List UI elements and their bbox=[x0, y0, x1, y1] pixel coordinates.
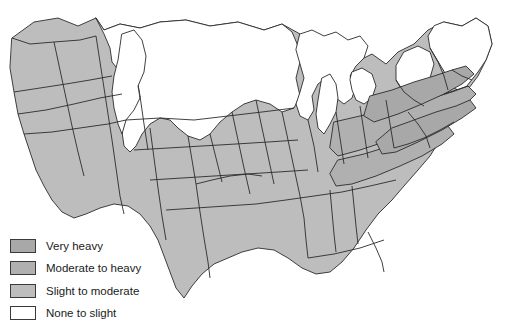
legend-swatch-slight-to-moderate bbox=[10, 284, 36, 298]
acid-rain-severity-map-figure: Very heavy Moderate to heavy Slight to m… bbox=[0, 0, 507, 327]
legend: Very heavy Moderate to heavy Slight to m… bbox=[10, 238, 185, 324]
legend-label-slight-to-moderate: Slight to moderate bbox=[46, 285, 139, 298]
legend-item-slight-to-moderate: Slight to moderate bbox=[10, 283, 139, 299]
legend-item-moderate-to-heavy: Moderate to heavy bbox=[10, 260, 141, 276]
legend-label-very-heavy: Very heavy bbox=[46, 240, 103, 253]
legend-item-very-heavy: Very heavy bbox=[10, 238, 103, 254]
legend-swatch-very-heavy bbox=[10, 239, 36, 253]
legend-swatch-none-to-slight bbox=[10, 306, 36, 320]
boundary-fl bbox=[368, 232, 384, 272]
legend-label-moderate-to-heavy: Moderate to heavy bbox=[46, 262, 141, 275]
legend-label-none-to-slight: None to slight bbox=[46, 307, 116, 320]
legend-item-none-to-slight: None to slight bbox=[10, 305, 116, 321]
legend-swatch-moderate-to-heavy bbox=[10, 261, 36, 275]
